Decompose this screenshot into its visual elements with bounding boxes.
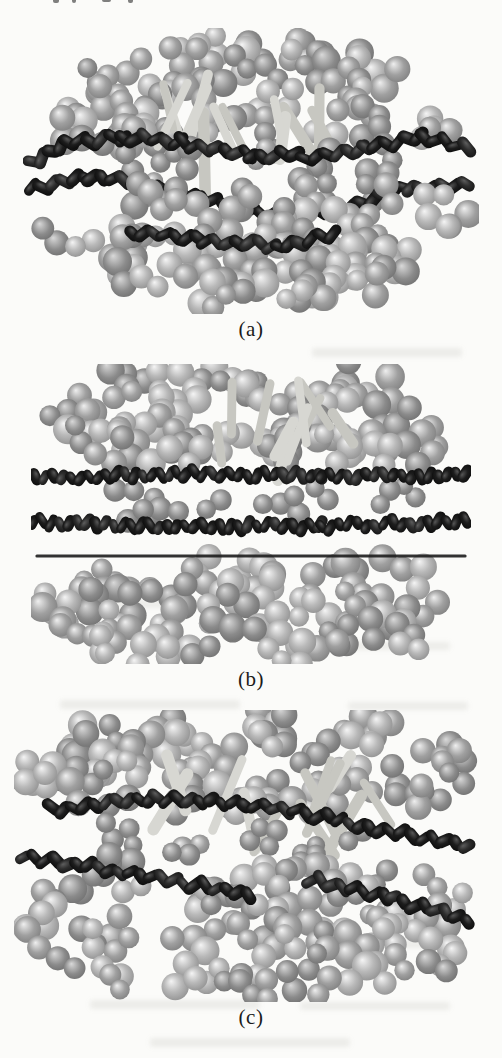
figure-panel-b: (b) — [0, 364, 502, 692]
panel-c-caption: (c) — [239, 1004, 264, 1030]
cropped-text-fragment — [102, 0, 111, 2]
molecular-model-snapshot-a — [23, 28, 479, 314]
page-showthrough-mark — [150, 1038, 350, 1047]
cropped-text-fragment — [128, 0, 133, 3]
molecular-model-snapshot-b — [31, 364, 471, 664]
panel-a-caption: (a) — [239, 316, 264, 342]
figure-panel-c: (c) — [0, 710, 502, 1030]
molecular-model-snapshot-c — [14, 710, 488, 1002]
panel-b-caption: (b) — [238, 666, 264, 692]
page-showthrough-mark — [312, 348, 462, 357]
scanned-page: (a) (b) (c) — [0, 0, 502, 1058]
page-showthrough-mark — [60, 700, 240, 709]
figure-panel-a: (a) — [0, 28, 502, 342]
page-showthrough-mark — [348, 702, 468, 710]
cropped-text-fragment — [53, 0, 59, 3]
